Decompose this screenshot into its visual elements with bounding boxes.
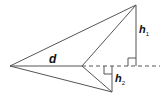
label-h2: h2 (115, 72, 126, 86)
label-h1: h1 (139, 23, 150, 37)
edge-middle-top (82, 5, 136, 66)
quadrilateral-diagram: d h1 h2 (0, 0, 168, 104)
right-angle-marker-h1 (128, 58, 136, 66)
right-angle-marker-h2 (104, 66, 112, 74)
label-d: d (49, 52, 57, 66)
edge-left-top (10, 5, 136, 66)
